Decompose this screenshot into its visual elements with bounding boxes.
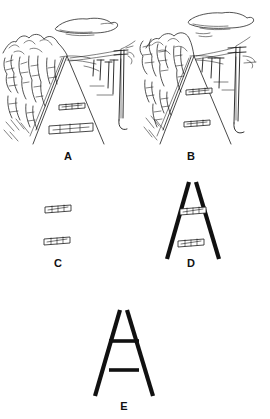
panel-label-d: D [187, 257, 195, 269]
panel-label-e: E [120, 400, 127, 412]
panel-label-b: B [187, 150, 195, 162]
panel-label-c: C [54, 257, 62, 269]
ponzo-illusion-figure: A [0, 0, 270, 419]
panel-label-a: A [64, 150, 72, 162]
figure-canvas: A [0, 0, 270, 419]
figure-background [0, 0, 270, 419]
